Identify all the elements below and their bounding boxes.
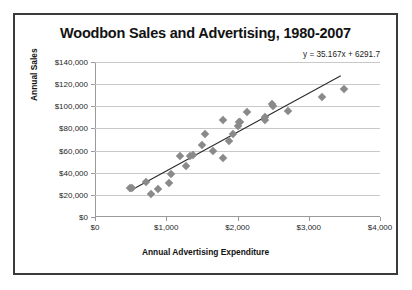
y-tick-label: $40,000 (59, 168, 88, 177)
trendline (95, 62, 380, 217)
y-tick-label: $140,000 (55, 58, 88, 67)
y-tick-label: $80,000 (59, 124, 88, 133)
trendline-equation-annotation: y = 35.167x + 6291.7 (303, 50, 380, 59)
plot-area: $0$20,000$40,000$60,000$80,000$100,000$1… (95, 62, 380, 217)
chart-frame: Woodbon Sales and Advertising, 1980-2007… (13, 13, 398, 275)
x-tick-label: $1,000 (154, 223, 178, 232)
y-axis-title: Annual Sales (29, 48, 39, 101)
x-tick-label: $4,000 (368, 223, 392, 232)
chart-title: Woodbon Sales and Advertising, 1980-2007 (15, 25, 396, 41)
x-tick-mark (238, 217, 239, 221)
x-axis-title: Annual Advertising Expenditure (15, 247, 396, 257)
x-tick-label: $3,000 (297, 223, 321, 232)
x-tick-label: $2,000 (225, 223, 249, 232)
x-tick-label: $0 (91, 223, 100, 232)
x-tick-mark (166, 217, 167, 221)
y-tick-label: $100,000 (55, 102, 88, 111)
x-tick-mark (95, 217, 96, 221)
x-tick-mark (309, 217, 310, 221)
y-tick-label: $60,000 (59, 146, 88, 155)
y-tick-label: $20,000 (59, 190, 88, 199)
x-tick-mark (380, 217, 381, 221)
y-tick-label: $0 (79, 213, 88, 222)
y-tick-label: $120,000 (55, 80, 88, 89)
